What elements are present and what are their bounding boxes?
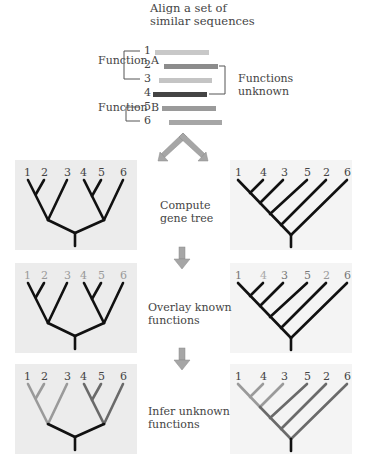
down-arrow-icon xyxy=(174,247,190,269)
tree-graphics xyxy=(0,0,367,474)
right-gene-tree-overlay xyxy=(238,283,347,350)
right-gene-tree-compute xyxy=(238,180,347,247)
down-arrow-icon xyxy=(174,348,190,370)
left-gene-tree-compute xyxy=(28,180,123,246)
split-arrow-icon xyxy=(158,133,208,161)
left-gene-tree-overlay xyxy=(28,283,123,349)
right-gene-tree-infer xyxy=(238,384,347,451)
left-gene-tree-infer xyxy=(28,384,123,450)
